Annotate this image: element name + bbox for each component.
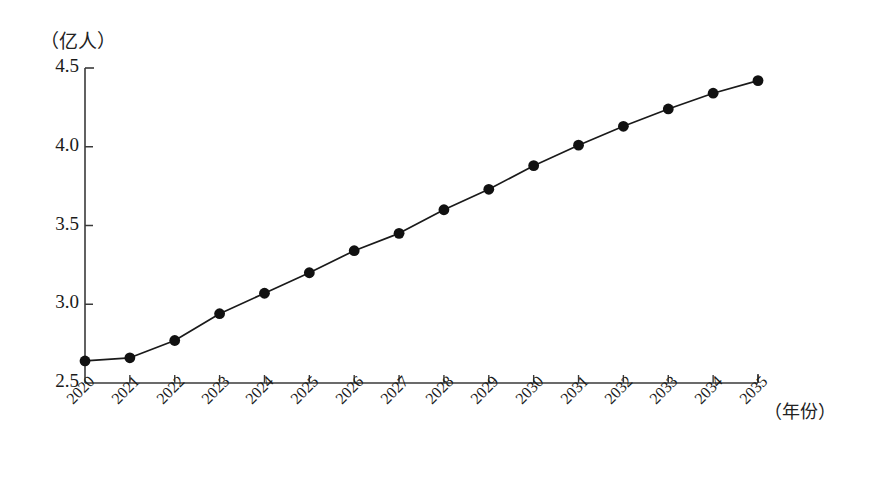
data-point-marker[interactable]: [214, 308, 225, 319]
y-tick-label: 3.5: [33, 213, 79, 235]
y-tick-label: 4.0: [33, 134, 79, 156]
series-line: [85, 81, 758, 361]
chart-container: （亿人） 2.53.03.54.04.5 2020202120222023202…: [0, 0, 875, 478]
data-point-marker[interactable]: [753, 75, 764, 86]
data-point-marker[interactable]: [304, 267, 315, 278]
data-point-marker[interactable]: [708, 88, 719, 99]
data-point-marker[interactable]: [663, 104, 674, 115]
data-point-marker[interactable]: [483, 184, 494, 195]
data-point-marker[interactable]: [259, 288, 270, 299]
y-tick-label: 4.5: [33, 55, 79, 77]
data-series-layer: [80, 75, 764, 366]
data-point-marker[interactable]: [80, 356, 91, 367]
data-point-marker[interactable]: [439, 204, 450, 215]
data-point-marker[interactable]: [124, 352, 135, 363]
line-chart-plot: [0, 0, 875, 478]
data-point-marker[interactable]: [573, 140, 584, 151]
data-point-marker[interactable]: [528, 160, 539, 171]
data-point-marker[interactable]: [169, 335, 180, 346]
axis-layer: [85, 68, 758, 383]
y-tick-label: 3.0: [33, 291, 79, 313]
x-axis-unit-label: （年份）: [764, 397, 836, 423]
data-point-marker[interactable]: [394, 228, 405, 239]
data-point-marker[interactable]: [618, 121, 629, 132]
data-point-marker[interactable]: [349, 245, 360, 256]
